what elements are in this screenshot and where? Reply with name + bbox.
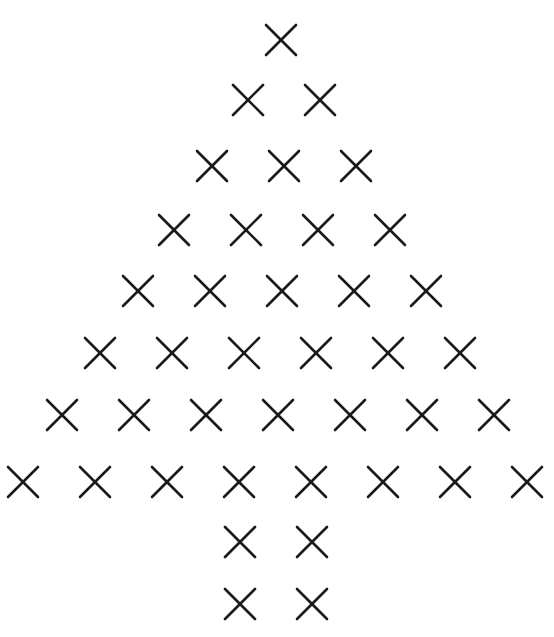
x-mark-icon — [155, 336, 189, 370]
x-mark-icon — [83, 336, 117, 370]
x-mark-icon — [261, 398, 295, 432]
x-mark-icon — [223, 587, 257, 621]
x-mark-icon — [301, 213, 335, 247]
x-mark-icon — [150, 465, 184, 499]
x-mark-icon — [294, 465, 328, 499]
x-mark-icon — [510, 465, 544, 499]
x-mark-icon — [438, 465, 472, 499]
x-mark-icon — [78, 465, 112, 499]
x-mark-icon — [222, 465, 256, 499]
x-mark-icon — [373, 213, 407, 247]
x-mark-icon — [339, 149, 373, 183]
x-mark-icon — [295, 525, 329, 559]
x-mark-icon — [366, 465, 400, 499]
x-mark-icon — [189, 398, 223, 432]
x-mark-icon — [265, 274, 299, 308]
x-mark-icon — [193, 274, 227, 308]
x-mark-icon — [303, 83, 337, 117]
x-mark-icon — [45, 398, 79, 432]
x-mark-icon — [157, 213, 191, 247]
tree-diagram — [0, 0, 554, 637]
x-mark-icon — [371, 336, 405, 370]
x-mark-icon — [6, 465, 40, 499]
x-mark-icon — [195, 149, 229, 183]
x-mark-icon — [121, 274, 155, 308]
x-mark-icon — [333, 398, 367, 432]
x-mark-icon — [409, 274, 443, 308]
x-mark-icon — [267, 149, 301, 183]
x-mark-icon — [337, 274, 371, 308]
x-mark-icon — [299, 336, 333, 370]
x-mark-icon — [264, 23, 298, 57]
x-mark-icon — [227, 336, 261, 370]
x-mark-icon — [117, 398, 151, 432]
x-mark-icon — [443, 336, 477, 370]
x-mark-icon — [229, 213, 263, 247]
x-mark-icon — [231, 83, 265, 117]
x-mark-icon — [295, 587, 329, 621]
x-mark-icon — [477, 398, 511, 432]
x-mark-icon — [405, 398, 439, 432]
x-mark-icon — [223, 525, 257, 559]
